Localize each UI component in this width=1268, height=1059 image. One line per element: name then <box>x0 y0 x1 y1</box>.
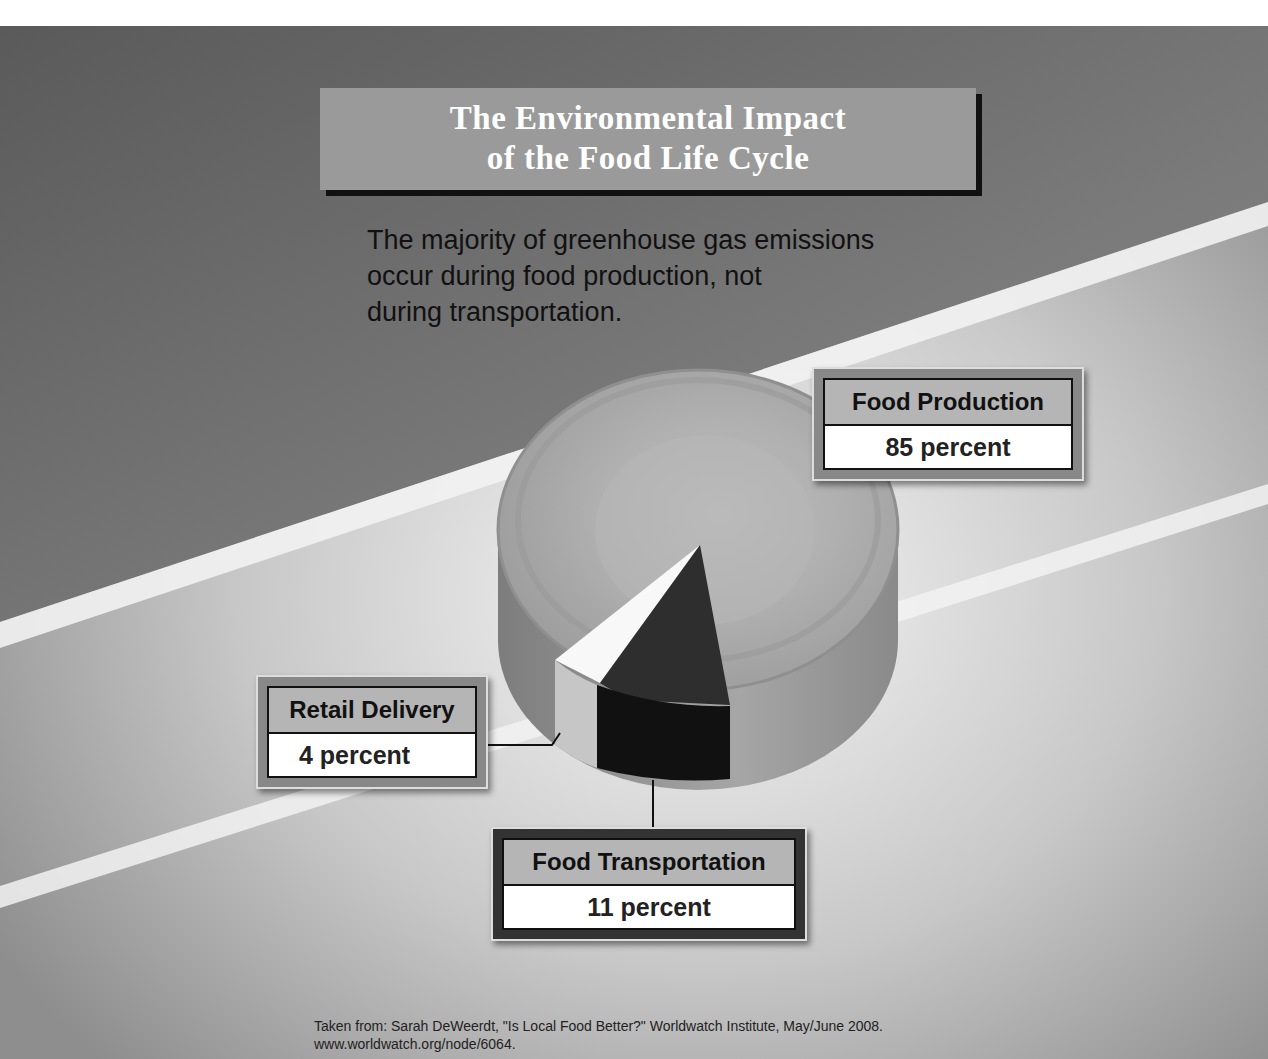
label-value: 11 percent <box>504 886 794 928</box>
source-citation: Taken from: Sarah DeWeerdt, "Is Local Fo… <box>314 1017 883 1053</box>
chart-subtitle: The majority of greenhouse gas emissions… <box>367 222 987 330</box>
label-value: 85 percent <box>825 426 1071 468</box>
label-value: 4 percent <box>269 734 475 776</box>
label-food-production: Food Production 85 percent <box>812 367 1084 481</box>
label-retail-delivery: Retail Delivery 4 percent <box>256 675 488 789</box>
subtitle-line1: The majority of greenhouse gas emissions <box>367 222 987 258</box>
subtitle-line3: during transportation. <box>367 294 987 330</box>
label-name: Food Production <box>825 380 1071 426</box>
chart-title-line1: The Environmental Impact <box>320 98 976 138</box>
chart-title-line2: of the Food Life Cycle <box>320 138 976 178</box>
source-url: www.worldwatch.org/node/6064. <box>314 1035 883 1053</box>
label-name: Food Transportation <box>504 840 794 886</box>
chart-title: The Environmental Impact of the Food Lif… <box>320 88 976 190</box>
label-food-transportation: Food Transportation 11 percent <box>491 827 807 941</box>
source-line1: Taken from: Sarah DeWeerdt, "Is Local Fo… <box>314 1017 883 1035</box>
subtitle-line2: occur during food production, not <box>367 258 987 294</box>
label-name: Retail Delivery <box>269 688 475 734</box>
